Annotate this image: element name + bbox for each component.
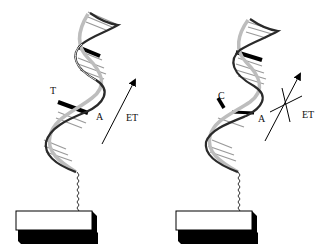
et-arrow [265, 74, 300, 141]
alkyl-linker [238, 172, 240, 214]
alkyl-linker [77, 172, 79, 214]
et-label: ET [302, 109, 314, 120]
base-label-a: A [258, 113, 266, 124]
base-label-t: T [50, 85, 56, 96]
base-label-a: A [96, 111, 104, 122]
et-label: ET [126, 112, 138, 123]
et-blocked-cross-icon [270, 88, 302, 122]
panel-left: T A ET [16, 12, 138, 244]
electrode-surface [16, 211, 98, 244]
panel-right: C A ET [176, 19, 314, 244]
dna-strand-front [46, 13, 118, 172]
base-label-c: C [218, 90, 225, 101]
electrode-surface [176, 211, 258, 244]
dna-et-diagram: T A ET C A [0, 0, 328, 244]
